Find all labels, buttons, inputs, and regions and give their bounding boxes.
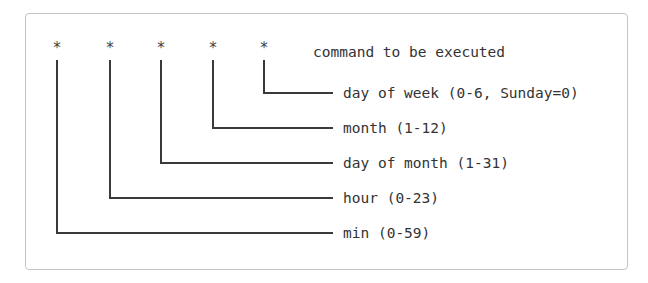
connector-hour-vertical [109, 60, 111, 199]
asterisk-month: * [208, 41, 217, 56]
connector-day-of-week-vertical [263, 60, 265, 94]
asterisk-hour: * [105, 41, 114, 56]
connector-month-vertical [212, 60, 214, 129]
connector-day-of-month-vertical [160, 60, 162, 164]
connector-min-horizontal [56, 232, 333, 234]
connector-day-of-month-horizontal [160, 162, 333, 164]
asterisk-day-of-month: * [156, 41, 165, 56]
asterisk-min: * [52, 41, 61, 56]
connector-day-of-week-horizontal [263, 92, 333, 94]
connector-hour-horizontal [109, 197, 333, 199]
field-label-month: month (1-12) [343, 121, 448, 136]
field-label-day-of-month: day of month (1-31) [343, 156, 509, 171]
connector-min-vertical [56, 60, 58, 234]
field-label-day-of-week: day of week (0-6, Sunday=0) [343, 86, 579, 101]
asterisk-day-of-week: * [259, 41, 268, 56]
command-label: command to be executed [313, 45, 505, 60]
field-label-hour: hour (0-23) [343, 191, 439, 206]
connector-month-horizontal [212, 127, 333, 129]
field-label-min: min (0-59) [343, 226, 430, 241]
